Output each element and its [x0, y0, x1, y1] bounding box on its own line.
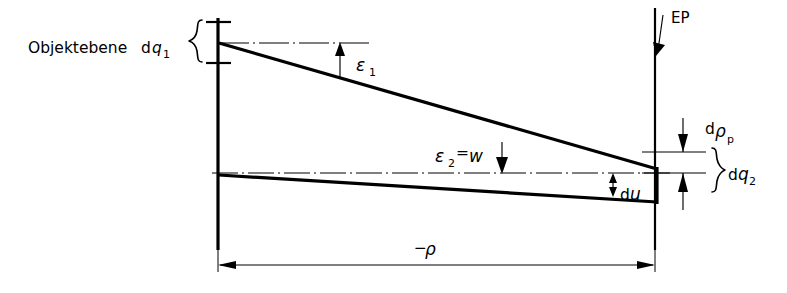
epsilon2-label-subscript: 2: [448, 157, 455, 170]
drhop-arrowhead-upper: [678, 134, 688, 152]
rho-arrowhead-left: [218, 261, 236, 269]
du-arrowhead-top: [609, 173, 617, 183]
epsilon2-label-symbol: ε: [435, 146, 444, 166]
drhop-arrowhead-lower: [678, 173, 688, 192]
epsilon1-label-subscript: 1: [369, 66, 376, 79]
diagram-canvas: Objektebene d q 1 ε 1 ε 2 = w d u EP d ρ…: [0, 0, 787, 293]
epsilon1-label-symbol: ε: [356, 55, 365, 75]
epsilon2-label-value: w: [469, 146, 483, 166]
aberration-diagram-svg: Objektebene d q 1 ε 1 ε 2 = w d u EP d ρ…: [0, 0, 787, 293]
entrance-pupil-label: EP: [671, 9, 690, 27]
object-plane-label-d: d: [141, 39, 151, 57]
object-plane-brace: [189, 20, 202, 62]
du-arrowhead-bottom: [609, 187, 617, 197]
rho-dimension-label-symbol: ρ: [425, 239, 436, 259]
object-plane-label-prefix: Objektebene: [28, 39, 127, 57]
epsilon1-arrowhead: [335, 42, 345, 56]
du-label-d: d: [620, 186, 630, 204]
rho-arrowhead-right: [637, 261, 655, 269]
object-plane-label-subscript: 1: [163, 48, 170, 61]
object-plane-label-symbol: q: [152, 39, 162, 57]
drhop-label-d: d: [705, 120, 715, 138]
drhop-label-subscript: p: [727, 133, 734, 146]
drhop-label-symbol: ρ: [715, 121, 726, 141]
dq2-brace: [712, 148, 725, 192]
epsilon2-arrowhead: [496, 157, 508, 174]
lower-ray-line: [219, 175, 657, 202]
epsilon2-label-equals: =: [456, 144, 469, 162]
dq2-label-subscript: 2: [749, 175, 756, 188]
du-label-symbol: u: [630, 184, 641, 204]
dq2-label-symbol: q: [738, 164, 749, 184]
dq2-label-d: d: [728, 166, 738, 184]
